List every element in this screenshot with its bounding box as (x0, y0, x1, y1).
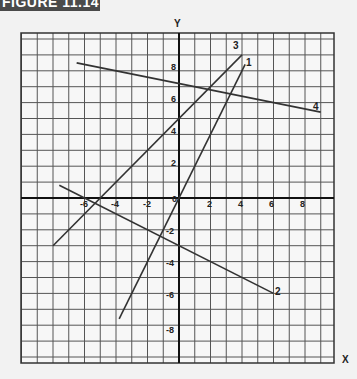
x-axis-label: X (342, 354, 349, 365)
x-tick-label: 8 (300, 199, 305, 209)
x-tick-label: -4 (111, 199, 119, 209)
x-tick-label: 6 (269, 199, 274, 209)
y-tick-label: -6 (166, 290, 174, 300)
y-tick-label: 4 (171, 126, 176, 136)
line-1-label: 1 (246, 57, 252, 68)
y-tick-label: -4 (166, 258, 174, 268)
line-2-label: 2 (275, 286, 281, 297)
x-tick-label: -6 (80, 199, 88, 209)
coordinate-plane-chart: Y X -6 -4 -2 2 4 6 8 8 6 4 2 0 -2 -4 -6 … (0, 0, 357, 379)
origin-label: 0 (172, 194, 177, 204)
x-tick-label: 4 (238, 199, 243, 209)
y-tick-label: 6 (171, 94, 176, 104)
y-tick-label: -8 (166, 325, 174, 335)
y-tick-label: 8 (171, 62, 176, 72)
line-3-label: 3 (233, 40, 239, 51)
y-tick-label: 2 (171, 158, 176, 168)
x-tick-label: -2 (143, 199, 151, 209)
line-4-label: 4 (313, 101, 319, 112)
y-tick-label: -2 (166, 226, 174, 236)
y-axis-label: Y (174, 18, 181, 29)
x-tick-label: 2 (207, 199, 212, 209)
